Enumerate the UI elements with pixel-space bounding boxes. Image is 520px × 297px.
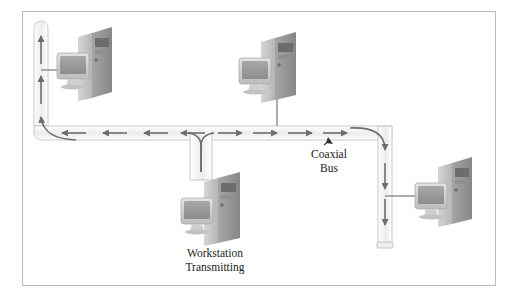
monitor-screen bbox=[418, 186, 444, 204]
coaxial-bus-label-line2: Bus bbox=[287, 161, 371, 175]
tower-drive-slot bbox=[95, 50, 109, 54]
coaxial-bus-label-line1: Coaxial bbox=[287, 147, 371, 161]
workstation-top-center[interactable] bbox=[239, 32, 296, 103]
monitor-base bbox=[243, 89, 267, 94]
tower-power-button[interactable] bbox=[94, 58, 98, 62]
tower-drive-bay bbox=[95, 38, 109, 47]
monitor-screen bbox=[60, 56, 86, 74]
monitor-base bbox=[419, 214, 443, 219]
tower-drive-slot bbox=[278, 55, 293, 59]
monitor-base bbox=[61, 84, 85, 89]
tower-power-button[interactable] bbox=[220, 203, 224, 207]
workstation-label-line1: Workstation bbox=[150, 246, 280, 260]
workstation-right[interactable] bbox=[415, 157, 472, 227]
tower-power-button[interactable] bbox=[454, 188, 458, 192]
tower-drive-bay bbox=[455, 168, 469, 177]
cable-terminator-bottom bbox=[377, 242, 393, 248]
tower-power-button[interactable] bbox=[277, 63, 281, 67]
monitor-base bbox=[185, 229, 209, 234]
workstation-top-left[interactable] bbox=[57, 27, 112, 101]
monitor-screen bbox=[242, 61, 268, 79]
tower-drive-slot bbox=[221, 195, 236, 199]
tower-side bbox=[92, 27, 112, 98]
network-diagram-figure: Coaxial Bus Workstation Transmitting bbox=[0, 0, 520, 297]
monitor-screen bbox=[184, 201, 210, 219]
tower-drive-slot bbox=[455, 180, 469, 184]
workstation-transmitting[interactable] bbox=[181, 172, 240, 246]
tower-drive-bay bbox=[221, 183, 236, 192]
tower-drive-bay bbox=[278, 43, 293, 52]
coaxial-bus-label: Coaxial Bus bbox=[287, 147, 371, 175]
workstation-label-line2: Transmitting bbox=[150, 260, 280, 274]
tower-side bbox=[218, 172, 240, 243]
workstation-transmitting-label: Workstation Transmitting bbox=[150, 246, 280, 274]
